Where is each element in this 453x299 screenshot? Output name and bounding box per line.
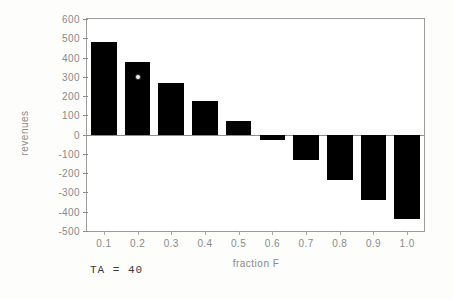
x-axis-tick-label: 1.0 [400, 238, 415, 249]
y-axis-tick [83, 231, 88, 232]
x-axis-tick [306, 231, 307, 235]
y-axis-tick-label: 600 [62, 14, 80, 25]
bar [158, 83, 184, 135]
scan-speck-artifact [136, 75, 140, 79]
y-axis-tick-label: 400 [62, 52, 80, 63]
y-axis-tick [83, 192, 88, 193]
bar [226, 121, 252, 134]
x-axis-tick-label: 0.1 [96, 238, 111, 249]
x-axis-tick-label: 0.3 [164, 238, 179, 249]
y-axis-tick-label: 300 [62, 71, 80, 82]
y-axis-tick-label: -100 [58, 148, 80, 159]
x-axis-title: fraction F [233, 258, 280, 269]
bar [293, 135, 319, 161]
x-axis-tick [373, 231, 374, 235]
x-axis-tick [407, 231, 408, 235]
y-axis-title: revenues [19, 110, 30, 155]
y-axis-tick [83, 115, 88, 116]
x-axis-tick-label: 0.8 [332, 238, 347, 249]
x-axis-tick [138, 231, 139, 235]
y-axis-tick [83, 38, 88, 39]
x-axis-tick [104, 231, 105, 235]
y-axis-tick-label: -400 [58, 206, 80, 217]
x-axis-tick-label: 0.2 [130, 238, 145, 249]
plot-frame: 6005004003002001000-100-200-300-400-5000… [86, 18, 425, 232]
y-axis-tick [83, 58, 88, 59]
x-axis-tick-label: 0.5 [231, 238, 246, 249]
x-axis-tick [340, 231, 341, 235]
y-axis-tick [83, 212, 88, 213]
bar [394, 135, 420, 219]
x-axis-tick-label: 0.6 [265, 238, 280, 249]
y-axis-tick-label: -300 [58, 187, 80, 198]
x-axis-tick [205, 231, 206, 235]
y-axis-tick [83, 154, 88, 155]
y-axis-tick [83, 19, 88, 20]
bar [327, 135, 353, 181]
bar [192, 101, 218, 134]
x-axis-tick [171, 231, 172, 235]
bar [361, 135, 387, 201]
x-axis-tick [239, 231, 240, 235]
x-axis-tick-label: 0.9 [366, 238, 381, 249]
x-axis-tick-label: 0.7 [298, 238, 313, 249]
y-axis-tick-label: -200 [58, 168, 80, 179]
x-axis-tick-label: 0.4 [197, 238, 212, 249]
plot-area: 6005004003002001000-100-200-300-400-5000… [87, 19, 424, 231]
y-axis-tick-label: 0 [74, 129, 80, 140]
y-axis-tick [83, 135, 88, 136]
y-axis-tick-label: -500 [58, 226, 80, 237]
y-axis-tick [83, 77, 88, 78]
y-axis-tick-label: 500 [62, 33, 80, 44]
y-axis-tick-label: 200 [62, 91, 80, 102]
y-axis-tick [83, 96, 88, 97]
y-axis-tick-label: 100 [62, 110, 80, 121]
bar [91, 42, 117, 135]
bar-chart-figure: revenues 6005004003002001000-100-200-300… [0, 0, 453, 299]
x-axis-tick [272, 231, 273, 235]
bar [125, 62, 151, 135]
ta-annotation: TA = 40 [90, 264, 143, 276]
y-axis-tick [83, 173, 88, 174]
bar [260, 135, 286, 140]
